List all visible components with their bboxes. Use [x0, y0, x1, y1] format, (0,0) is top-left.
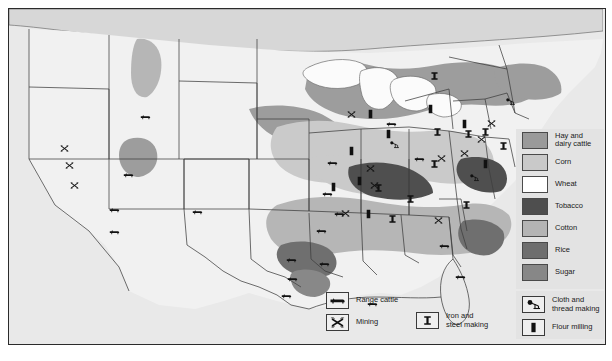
cow-icon — [439, 241, 450, 250]
swatch-wheat — [522, 176, 548, 193]
legend-symbol-label-flour-milling: Flour milling — [552, 323, 592, 332]
ingot-icon — [433, 127, 442, 137]
cow-icon — [123, 170, 134, 179]
cow-icon — [326, 292, 349, 309]
usa-thematic-map — [9, 9, 603, 342]
legend-crop-label-5: Rice — [555, 246, 570, 255]
swatch-sugar — [522, 264, 548, 281]
legend-crop-label-4: Cotton — [555, 224, 577, 233]
cow-icon — [192, 207, 203, 216]
cow-icon — [319, 259, 330, 268]
legend-symbol-range-cattle: Range cattle — [326, 292, 398, 309]
legend-symbol-label-cloth-and-thread: Cloth and thread making — [552, 296, 600, 313]
crossed-picks-icon — [64, 161, 75, 170]
legend-crop-item-5: Rice — [522, 239, 604, 261]
swatch-rice — [522, 242, 548, 259]
legend-crop-item-2: Wheat — [522, 173, 604, 195]
swatch-hay-and-dairy-cattle — [522, 132, 548, 149]
flour-sack-icon — [522, 319, 545, 336]
swatch-tobacco — [522, 198, 548, 215]
crossed-picks-icon — [459, 149, 470, 158]
legend-crop-label-1: Corn — [555, 158, 571, 167]
spinning-wheel-icon — [505, 97, 516, 106]
legend-crop-label-6: Sugar — [555, 268, 575, 277]
legend-symbols-middle-panel: Iron and steel making — [416, 312, 488, 329]
ingot-icon — [406, 194, 415, 204]
legend-symbols-right-panel: Cloth and thread making Flour milling — [516, 291, 604, 339]
ingot-icon — [416, 312, 439, 329]
ingot-icon — [388, 214, 397, 224]
spinning-wheel-icon — [389, 140, 400, 149]
cow-icon — [455, 272, 466, 281]
cow-icon — [386, 119, 397, 128]
cow-icon — [140, 112, 151, 121]
ingot-icon — [499, 141, 508, 151]
cow-icon — [281, 291, 292, 300]
crossed-picks-icon — [433, 216, 444, 225]
crossed-picks-icon — [59, 144, 70, 153]
legend-crop-item-3: Tobacco — [522, 195, 604, 217]
cow-icon — [327, 158, 338, 167]
cow-icon — [286, 255, 297, 264]
swatch-corn — [522, 154, 548, 171]
legend-crops-panel: Hay and dairy cattle Corn Wheat Tobacco … — [516, 129, 604, 289]
legend-symbol-cloth-and-thread: Cloth and thread making — [522, 296, 604, 313]
map-screenshot: Hay and dairy cattle Corn Wheat Tobacco … — [0, 0, 612, 361]
flour-sack-icon — [355, 176, 364, 186]
cow-icon — [316, 226, 327, 235]
legend-symbols-left-panel: Range cattle Mining — [326, 292, 398, 336]
legend-crop-item-6: Sugar — [522, 261, 604, 283]
crossed-picks-icon — [365, 164, 376, 173]
swatch-cotton — [522, 220, 548, 237]
legend-symbol-label-mining: Mining — [356, 318, 378, 327]
flour-sack-icon — [329, 182, 338, 192]
cow-icon — [414, 154, 425, 163]
flour-sack-icon — [364, 209, 373, 219]
flour-sack-icon — [426, 104, 435, 114]
legend-crop-item-4: Cotton — [522, 217, 604, 239]
crossed-picks-icon — [69, 181, 80, 190]
ingot-icon — [430, 159, 439, 169]
legend-crop-item-0: Hay and dairy cattle — [522, 129, 604, 151]
legend-symbol-label-range-cattle: Range cattle — [356, 296, 398, 305]
crossed-picks-icon — [340, 209, 351, 218]
crossed-picks-icon — [346, 110, 357, 119]
spinning-wheel-icon — [522, 296, 545, 313]
ingot-icon — [464, 129, 473, 139]
cow-icon — [109, 227, 120, 236]
legend-symbol-mining: Mining — [326, 314, 398, 331]
cow-icon — [109, 205, 120, 214]
spinning-wheel-icon — [469, 173, 480, 182]
legend-crop-label-2: Wheat — [555, 180, 577, 189]
flour-sack-icon — [384, 129, 393, 139]
cow-icon — [287, 274, 298, 283]
flour-sack-icon — [481, 159, 490, 169]
flour-sack-icon — [347, 146, 356, 156]
legend-symbol-label-iron-and-steel: Iron and steel making — [446, 312, 488, 329]
flour-sack-icon — [366, 109, 375, 119]
flour-sack-icon — [460, 119, 469, 129]
legend-symbol-iron-and-steel: Iron and steel making — [416, 312, 488, 329]
ingot-icon — [462, 200, 471, 210]
ingot-icon — [481, 127, 490, 137]
ingot-icon — [430, 71, 439, 81]
ingot-icon — [374, 183, 383, 193]
legend-crop-label-0: Hay and dairy cattle — [555, 132, 591, 149]
legend-symbol-flour-milling: Flour milling — [522, 319, 604, 336]
legend-crop-label-3: Tobacco — [555, 202, 583, 211]
crossed-picks-icon — [326, 314, 349, 331]
legend-crop-item-1: Corn — [522, 151, 604, 173]
